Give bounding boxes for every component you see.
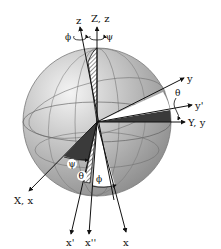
label-phi-bottom: ϕ bbox=[96, 174, 102, 184]
label-psi-bottom-badge: ψ bbox=[67, 159, 77, 169]
euler-angles-diagram: Z, z z y y' Y, y X, x x' x'' x ϕ ψ θ ψ θ… bbox=[0, 0, 221, 249]
label-Z-z: Z, z bbox=[91, 13, 109, 24]
label-X-x: X, x bbox=[14, 195, 33, 206]
label-x: x bbox=[123, 237, 129, 248]
label-y: y bbox=[186, 73, 193, 84]
label-y-prime: y' bbox=[194, 100, 203, 111]
svg-text:ψ: ψ bbox=[69, 159, 76, 169]
label-theta-right: θ bbox=[175, 88, 180, 98]
phi-rotation-arrow-top bbox=[74, 35, 87, 40]
svg-text:θ: θ bbox=[79, 171, 84, 181]
label-psi-top: ψ bbox=[106, 32, 113, 42]
label-theta-bottom-badge: θ bbox=[77, 171, 87, 181]
label-z-tilted: z bbox=[76, 15, 81, 26]
label-x-double-prime: x'' bbox=[85, 237, 96, 248]
label-phi-top: ϕ bbox=[65, 32, 71, 42]
theta-rotation-arrow-right bbox=[174, 98, 179, 120]
label-Y-y: Y, y bbox=[187, 117, 206, 128]
label-x-prime: x' bbox=[66, 237, 74, 248]
